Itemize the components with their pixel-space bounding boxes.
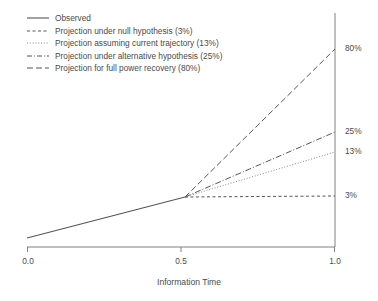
legend-item-full-power-recovery[interactable]: Projection for full power recovery (80%) bbox=[26, 62, 256, 75]
chart-legend: Observed Projection under null hypothesi… bbox=[26, 12, 256, 75]
chart-container: Observed Projection under null hypothesi… bbox=[0, 0, 378, 301]
x-axis-title: Information Time bbox=[0, 277, 378, 287]
legend-key-dotted-line-icon bbox=[26, 37, 50, 49]
legend-key-dashed-line-icon bbox=[26, 25, 50, 37]
legend-key-solid-line-icon bbox=[26, 12, 50, 24]
x-tick-label-1: 0.5 bbox=[160, 256, 202, 266]
legend-item-current-trajectory[interactable]: Projection assuming current trajectory (… bbox=[26, 37, 256, 50]
series-line-observed bbox=[27, 197, 185, 238]
x-tick-label-0: 0.0 bbox=[7, 256, 49, 266]
legend-item-alternative-hypothesis[interactable]: Projection under alternative hypothesis … bbox=[26, 50, 256, 63]
right-axis-label-25: 25% bbox=[345, 126, 362, 136]
legend-label-alternative-hypothesis: Projection under alternative hypothesis … bbox=[55, 50, 222, 62]
legend-key-longdash-line-icon bbox=[26, 62, 50, 74]
x-tick-label-2: 1.0 bbox=[314, 256, 356, 266]
series-line-alternative-hypothesis bbox=[185, 132, 335, 197]
right-axis-label-3: 3% bbox=[345, 190, 357, 200]
legend-label-observed: Observed bbox=[55, 12, 91, 24]
legend-label-current-trajectory: Projection assuming current trajectory (… bbox=[55, 37, 219, 49]
legend-label-full-power-recovery: Projection for full power recovery (80%) bbox=[55, 62, 200, 74]
legend-item-null-hypothesis[interactable]: Projection under null hypothesis (3%) bbox=[26, 25, 256, 38]
series-line-null-hypothesis bbox=[185, 196, 335, 197]
right-axis-label-13: 13% bbox=[345, 146, 362, 156]
right-axis-label-80: 80% bbox=[345, 43, 362, 53]
legend-key-dashdot-line-icon bbox=[26, 50, 50, 62]
legend-label-null-hypothesis: Projection under null hypothesis (3%) bbox=[55, 25, 192, 37]
legend-item-observed[interactable]: Observed bbox=[26, 12, 256, 25]
